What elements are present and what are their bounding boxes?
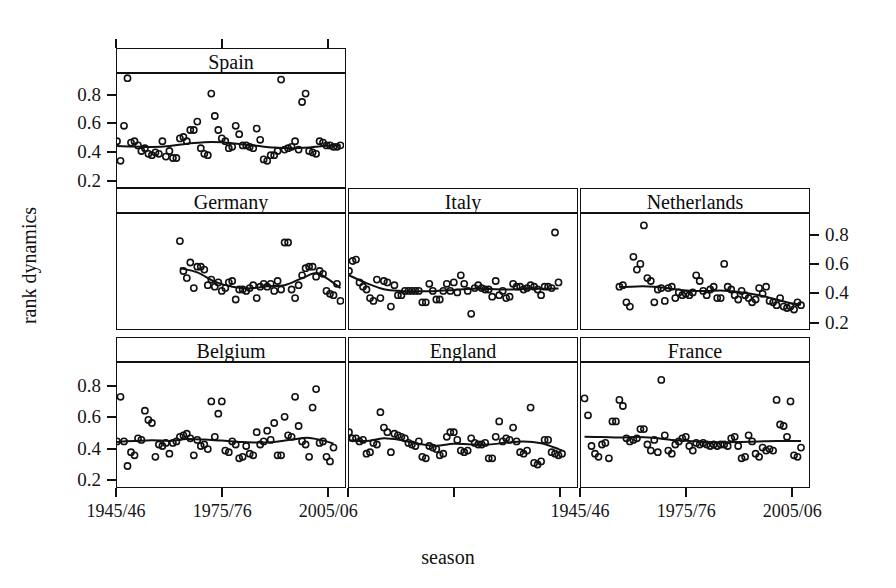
panel-title-france: France [581, 341, 809, 361]
x-axis-title: season [0, 546, 896, 569]
y-tick [107, 479, 116, 481]
data-points [117, 386, 337, 469]
y-axis-title: rank dynamics [0, 250, 130, 280]
multi-panel-scatter-figure: SpainGermanyItalyNetherlandsBelgiumEngla… [0, 0, 896, 588]
y-tick [107, 416, 116, 418]
x-tick [579, 488, 581, 497]
panel-plot-england [349, 363, 576, 486]
panel-title-italy: Italy [349, 192, 577, 212]
y-tick-label: 0.6 [825, 254, 849, 273]
data-points [349, 229, 562, 317]
panel-belgium [116, 362, 346, 488]
y-tick-label: 0.4 [77, 142, 101, 161]
panel-plot-netherlands [581, 214, 808, 328]
x-tick-label: 2005/06 [732, 502, 852, 520]
panel-strip-england: England [348, 337, 578, 362]
x-tick-label: 2005/06 [268, 502, 388, 520]
y-tick-label: 0.2 [77, 171, 101, 190]
panel-strip-spain: Spain [116, 48, 346, 73]
y-tick-label: 0.8 [77, 376, 101, 395]
panel-plot-germany [117, 214, 344, 328]
y-tick-label: 0.4 [825, 283, 849, 302]
panel-plot-belgium [117, 363, 344, 486]
y-tick-label: 0.4 [77, 439, 101, 458]
y-tick [107, 94, 116, 96]
data-points [349, 405, 565, 468]
y-tick [810, 263, 819, 265]
x-tick [221, 488, 223, 497]
panel-title-spain: Spain [117, 52, 345, 72]
panel-strip-netherlands: Netherlands [580, 188, 810, 213]
y-tick [810, 322, 819, 324]
y-tick-label: 0.2 [825, 313, 849, 332]
panel-spain [116, 73, 346, 188]
y-tick-label: 0.8 [77, 85, 101, 104]
y-tick [107, 385, 116, 387]
y-tick [107, 151, 116, 153]
x-tick [559, 488, 561, 497]
panel-netherlands [580, 213, 810, 330]
x-tick-label: 1945/46 [520, 502, 640, 520]
trend-line [117, 438, 334, 444]
y-tick [810, 292, 819, 294]
panel-germany [116, 213, 346, 330]
data-points [581, 377, 804, 462]
x-tick [115, 39, 117, 48]
panel-title-netherlands: Netherlands [581, 192, 809, 212]
x-tick [685, 488, 687, 497]
y-tick [107, 180, 116, 182]
panel-strip-italy: Italy [348, 188, 578, 213]
x-tick-label: 1945/46 [56, 502, 176, 520]
x-tick-label: 1975/76 [626, 502, 746, 520]
panel-strip-germany: Germany [116, 188, 346, 213]
x-tick [221, 39, 223, 48]
panel-strip-belgium: Belgium [116, 337, 346, 362]
x-tick [327, 488, 329, 497]
x-tick [791, 488, 793, 497]
panel-title-belgium: Belgium [117, 341, 345, 361]
y-tick-label: 0.6 [77, 407, 101, 426]
panel-plot-italy [349, 214, 576, 328]
y-axis-title-text: rank dynamics [19, 206, 42, 323]
x-tick-label: 1975/76 [162, 502, 282, 520]
trend-line [585, 437, 802, 442]
data-points [177, 238, 344, 304]
y-tick [810, 234, 819, 236]
panel-france [580, 362, 810, 488]
panel-strip-france: France [580, 337, 810, 362]
panel-title-england: England [349, 341, 577, 361]
x-tick [453, 488, 455, 497]
panel-title-germany: Germany [117, 192, 345, 212]
panel-plot-spain [117, 74, 344, 186]
x-tick [327, 39, 329, 48]
y-tick-label: 0.2 [77, 470, 101, 489]
x-tick [347, 488, 349, 497]
panel-england [348, 362, 578, 488]
trend-line [349, 275, 559, 291]
data-points [117, 75, 344, 164]
y-tick [107, 122, 116, 124]
panel-italy [348, 213, 578, 330]
y-tick [107, 448, 116, 450]
panel-plot-france [581, 363, 808, 486]
y-tick-label: 0.8 [825, 225, 849, 244]
y-tick-label: 0.6 [77, 113, 101, 132]
x-tick [115, 488, 117, 497]
